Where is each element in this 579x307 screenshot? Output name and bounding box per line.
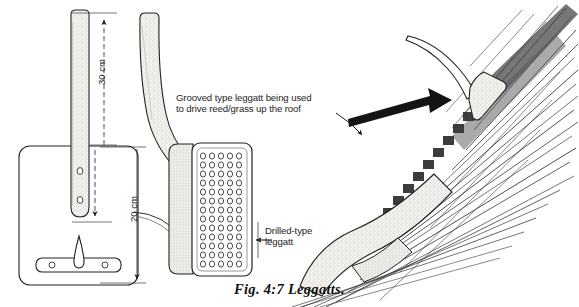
motion-arrow [348, 88, 452, 127]
handle-screw-hole-top [77, 168, 83, 175]
leggatt-handle [71, 10, 89, 217]
drilled-head-side [169, 144, 193, 274]
figure-caption: Fig. 4:7 Leggatts. [0, 281, 579, 298]
handle-screw-hole-bottom [77, 197, 83, 204]
annotation-grooved-leggatt: Grooved type leggatt being used to drive… [176, 92, 312, 115]
roof-scene [292, 4, 578, 307]
working-handle [406, 36, 476, 99]
dimension-label-20cm: 20 cm [128, 196, 139, 222]
annotation-drilled-leggatt: Drilled-type leggatt [265, 225, 312, 248]
curved-leggatt-drawing [134, 13, 272, 276]
flat-leggatt-drawing [19, 10, 146, 285]
bracket-screw-left [49, 262, 55, 268]
bracket-screw-right [102, 262, 108, 268]
dimension-label-30cm: 30 cm [96, 59, 107, 85]
working-shaft [300, 174, 452, 296]
leggatt-figure [0, 0, 579, 307]
